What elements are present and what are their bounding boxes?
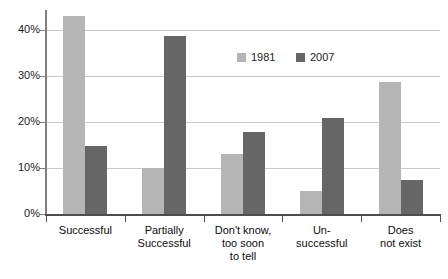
legend-label-2007: 2007 (310, 52, 334, 63)
y-tick-label-wrap: 0% (0, 208, 40, 219)
x-tick-mark (125, 216, 126, 222)
bar-1981-4 (300, 191, 322, 214)
legend-label-1981: 1981 (251, 52, 275, 63)
bar-2007-5 (401, 180, 423, 215)
x-tick-mark (46, 216, 47, 222)
y-tick-label: 0% (2, 208, 40, 219)
x-axis-label-3: Don't know,too soonto tell (204, 224, 283, 263)
y-tick-label: 10% (2, 162, 40, 173)
bar-2007-4 (322, 118, 344, 214)
x-axis-label-5: Doesnot exist (361, 224, 440, 250)
x-tick-mark (440, 216, 441, 222)
x-tick-mark (204, 216, 205, 222)
x-axis-label-line: too soon (204, 237, 283, 250)
x-axis-label-line: Partially (125, 224, 204, 237)
bar-2007-3 (243, 132, 265, 214)
x-axis-label-2: PartiallySuccessful (125, 224, 204, 250)
y-tick-label: 30% (2, 70, 40, 81)
y-tick-label-wrap: 40% (0, 24, 40, 35)
x-tick-mark (282, 216, 283, 222)
x-axis-label-line: Don't know, (204, 224, 283, 237)
bar-1981-2 (142, 168, 164, 214)
x-axis-line (45, 214, 441, 216)
x-axis-label-4: Un-successful (282, 224, 361, 250)
x-axis-label-line: Successful (46, 224, 125, 237)
y-tick-label: 20% (2, 116, 40, 127)
y-tick-label-wrap: 10% (0, 162, 40, 173)
legend-swatch-icon-1981 (237, 53, 246, 62)
x-tick-mark (361, 216, 362, 222)
x-axis-label-line: to tell (204, 250, 283, 263)
x-axis-label-1: Successful (46, 224, 125, 237)
bar-2007-2 (164, 36, 186, 214)
x-axis-label-line: not exist (361, 237, 440, 250)
y-tick-label: 40% (2, 24, 40, 35)
x-axis-label-line: Un- (282, 224, 361, 237)
legend-swatch-icon-2007 (296, 53, 305, 62)
bars-layer (46, 10, 440, 214)
bar-1981-5 (379, 82, 401, 214)
legend-item-2007: 2007 (296, 52, 334, 63)
bar-chart: 0%10%20%30%40% SuccessfulPartiallySucces… (0, 0, 448, 279)
y-tick-label-wrap: 20% (0, 116, 40, 127)
legend-item-1981: 1981 (237, 52, 275, 63)
x-axis-label-line: successful (282, 237, 361, 250)
x-axis-label-line: Does (361, 224, 440, 237)
bar-1981-1 (63, 16, 85, 214)
bar-2007-1 (85, 146, 107, 214)
x-axis-label-line: Successful (125, 237, 204, 250)
bar-1981-3 (221, 154, 243, 214)
y-tick-label-wrap: 30% (0, 70, 40, 81)
